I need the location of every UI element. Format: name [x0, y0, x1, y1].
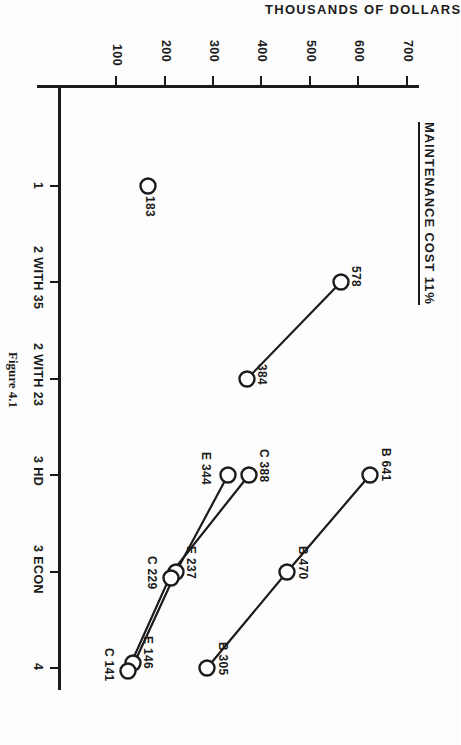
data-point-578[interactable]	[334, 275, 349, 290]
data-point-e-344[interactable]	[221, 468, 236, 483]
point-label-c-229: C 229	[145, 556, 159, 590]
point-label-183: 183	[143, 196, 157, 217]
data-point-b-305[interactable]	[200, 661, 215, 676]
point-label-e-344: E 344	[199, 452, 213, 485]
point-label-e-237: E 237	[184, 546, 198, 579]
data-point-c-141[interactable]	[121, 664, 136, 679]
point-label-c-388: C 388	[257, 449, 271, 483]
data-point-b-470[interactable]	[280, 565, 295, 580]
point-label-c-141: C 141	[102, 648, 116, 682]
data-point-c-229[interactable]	[164, 571, 179, 586]
point-label-b-470: B 470	[296, 546, 310, 580]
data-point-b-641[interactable]	[363, 468, 378, 483]
data-point-384[interactable]	[240, 372, 255, 387]
point-label-e-146: E 146	[141, 636, 155, 669]
data-point-c-388[interactable]	[242, 468, 257, 483]
point-label-b-305: B 305	[216, 642, 230, 676]
point-label-384: 384	[255, 364, 269, 385]
data-point-183[interactable]	[141, 179, 156, 194]
point-label-578: 578	[349, 266, 363, 287]
point-label-b-641: B 641	[379, 448, 393, 482]
